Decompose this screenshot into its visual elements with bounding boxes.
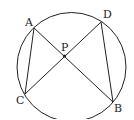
label-b: B [114,102,122,115]
circle-chords-diagram: A D P C B [0,0,134,119]
label-c: C [16,94,24,107]
label-a: A [24,16,34,29]
point-p-dot [63,54,66,57]
segment-db [101,22,113,102]
circle [17,13,126,120]
chord-cd [25,22,101,94]
label-p: P [61,41,69,54]
chord-ab [34,28,113,102]
label-d: D [103,8,112,21]
segment-ac [25,28,34,94]
